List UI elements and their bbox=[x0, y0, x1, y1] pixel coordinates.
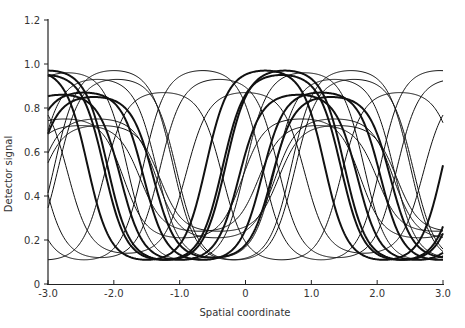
chart: -3.0-2.0-1.001.02.03.0 00.20.40.60.81.01… bbox=[0, 0, 465, 328]
x-tick-label: 3.0 bbox=[435, 288, 451, 299]
x-axis-label: Spatial coordinate bbox=[200, 307, 291, 318]
x-ticks-group: -3.0-2.0-1.001.02.03.0 bbox=[38, 280, 451, 299]
x-tick-label: -3.0 bbox=[38, 288, 58, 299]
y-tick-label: 0.2 bbox=[24, 235, 40, 246]
x-tick-label: 1.0 bbox=[303, 288, 319, 299]
y-tick-label: 1.2 bbox=[24, 15, 40, 26]
y-ticks-group: 00.20.40.60.81.01.2 bbox=[24, 15, 48, 290]
x-tick-label: -1.0 bbox=[170, 288, 190, 299]
y-tick-label: 0.4 bbox=[24, 191, 40, 202]
y-tick-label: 1.0 bbox=[24, 59, 40, 70]
x-tick-label: 0 bbox=[242, 288, 248, 299]
y-axis-label: Detector signal bbox=[3, 136, 14, 212]
y-tick-label: 0 bbox=[34, 279, 40, 290]
x-tick-label: 2.0 bbox=[369, 288, 385, 299]
y-tick-label: 0.6 bbox=[24, 147, 40, 158]
x-tick-label: -2.0 bbox=[104, 288, 124, 299]
curves-group bbox=[48, 71, 443, 260]
y-tick-label: 0.8 bbox=[24, 103, 40, 114]
